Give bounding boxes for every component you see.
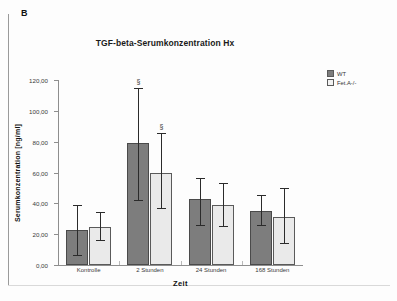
legend-item-label: Fet.A-/-: [337, 80, 356, 86]
y-axis-tick-label: 40,00: [33, 200, 48, 207]
plot-area: 0,0020,0040,0060,0080,00100,00120,00Kont…: [58, 80, 303, 266]
bar-group: 24 Stunden: [181, 79, 242, 265]
error-bar-cap-upper: [134, 88, 143, 89]
y-axis-tick-label: 20,00: [33, 231, 48, 238]
bar-group: Kontrolle: [58, 79, 119, 265]
y-axis-tick-label: 0,00: [36, 262, 48, 269]
error-bar: [200, 178, 201, 225]
x-axis-group-separator: [242, 261, 243, 265]
y-axis-tick-label: 60,00: [33, 169, 48, 176]
error-bar: [261, 195, 262, 225]
chart-title: TGF-beta-Serumkonzentration Hx: [0, 38, 330, 48]
legend-swatch-icon: [327, 79, 334, 86]
x-axis-title: Zeit: [58, 279, 303, 288]
error-bar: [223, 183, 224, 226]
y-axis-title: Serumkonzentration [ng/ml]: [14, 80, 26, 266]
x-axis-group-separator: [119, 261, 120, 265]
error-bar-cap-lower: [280, 243, 289, 244]
x-axis-category-label: 24 Stunden: [181, 267, 242, 273]
y-axis-tick: 0,00: [54, 265, 58, 266]
figure-panel: B TGF-beta-Serumkonzentration Hx Serumko…: [0, 0, 397, 301]
x-axis-group-separator: [181, 261, 182, 265]
error-bar-cap-lower: [219, 226, 228, 227]
error-bar: [138, 88, 139, 200]
y-axis-tick-label: 100,00: [29, 107, 48, 114]
figure-left-rule: [8, 14, 9, 286]
error-bar-cap-lower: [134, 200, 143, 201]
x-axis-line: [58, 265, 303, 266]
x-axis-category-label: Kontrolle: [58, 267, 119, 273]
significance-marker: §: [159, 123, 163, 130]
significance-marker: §: [136, 78, 140, 85]
error-bar-cap-upper: [196, 178, 205, 179]
error-bar-cap-upper: [157, 133, 166, 134]
y-axis-tick-label: 120,00: [29, 77, 48, 84]
legend-swatch-icon: [327, 70, 334, 77]
legend-item[interactable]: WT: [327, 70, 356, 77]
error-bar-cap-lower: [157, 208, 166, 209]
error-bar-cap-upper: [73, 205, 82, 206]
bar-group: §§2 Stunden: [119, 79, 180, 265]
error-bar: [284, 188, 285, 243]
error-bar: [100, 212, 101, 241]
legend-item[interactable]: Fet.A-/-: [327, 79, 356, 86]
legend-item-label: WT: [337, 71, 346, 77]
error-bar: [161, 133, 162, 208]
error-bar: [77, 205, 78, 254]
panel-letter: B: [21, 8, 28, 18]
error-bar-cap-upper: [96, 212, 105, 213]
error-bar-cap-upper: [280, 188, 289, 189]
y-axis-tick-label: 80,00: [33, 138, 48, 145]
chart-legend: WTFet.A-/-: [327, 70, 356, 88]
error-bar-cap-lower: [96, 240, 105, 241]
error-bar-cap-lower: [257, 225, 266, 226]
bar-group: 168 Stunden: [242, 79, 303, 265]
error-bar-cap-lower: [73, 255, 82, 256]
x-axis-category-label: 2 Stunden: [119, 267, 180, 273]
error-bar-cap-upper: [257, 195, 266, 196]
x-axis-category-label: 168 Stunden: [242, 267, 303, 273]
error-bar-cap-lower: [196, 225, 205, 226]
error-bar-cap-upper: [219, 183, 228, 184]
